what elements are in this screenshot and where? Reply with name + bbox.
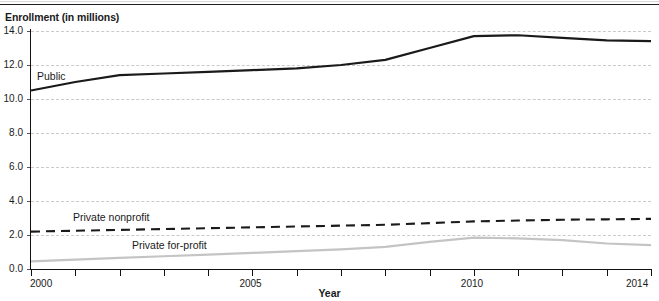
series-line-layer [0, 0, 659, 301]
series-label-private-for-profit: Private for-profit [132, 240, 207, 251]
series-line-public [31, 35, 651, 90]
series-label-public: Public [37, 71, 66, 82]
series-line-private-for-profit [31, 238, 651, 262]
series-label-private-nonprofit: Private nonprofit [73, 212, 149, 223]
chart-figure: Enrollment (in millions) 0.02.04.06.08.0… [0, 0, 659, 301]
